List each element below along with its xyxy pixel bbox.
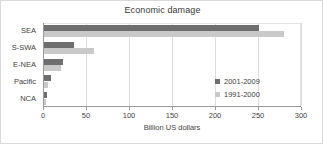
x-tick-50 xyxy=(86,107,87,110)
bar-s-swa-1991-2000 xyxy=(44,48,94,54)
bar-e-nea-1991-2000 xyxy=(44,65,61,71)
x-tick-label-150: 150 xyxy=(166,111,179,120)
y-axis-label-nca: NCA xyxy=(20,94,36,103)
chart-title: Economic damage xyxy=(1,5,323,15)
x-axis-title: Billion US dollars xyxy=(43,123,301,132)
bar-s-swa-2001-2009 xyxy=(44,42,74,48)
bar-sea-2001-2009 xyxy=(44,25,259,31)
bar-e-nea-2001-2009 xyxy=(44,59,63,65)
x-tick-label-300: 300 xyxy=(295,111,308,120)
x-tick-250 xyxy=(258,107,259,110)
legend-swatch-icon xyxy=(215,79,220,84)
y-axis-label-s-swa: S-SWA xyxy=(12,43,36,52)
y-axis-label-pacific: Pacific xyxy=(14,77,36,86)
x-tick-100 xyxy=(129,107,130,110)
legend-label: 2001-2009 xyxy=(224,77,260,86)
y-axis-label-e-nea: E-NEA xyxy=(13,60,36,69)
bar-pacific-2001-2009 xyxy=(44,75,51,81)
y-axis-label-sea: SEA xyxy=(21,26,36,35)
x-tick-label-200: 200 xyxy=(209,111,222,120)
bar-pacific-1991-2000 xyxy=(44,82,48,88)
legend-item-2001-2009[interactable]: 2001-2009 xyxy=(215,77,295,86)
bar-sea-1991-2000 xyxy=(44,31,284,37)
x-axis: 050100150200250300 xyxy=(43,107,301,121)
bar-nca-2001-2009 xyxy=(44,92,47,98)
x-tick-label-100: 100 xyxy=(123,111,136,120)
legend-swatch-icon xyxy=(215,92,220,97)
y-axis-labels: SEAS-SWAE-NEAPacificNCA xyxy=(1,23,40,107)
legend-label: 1991-2000 xyxy=(224,90,260,99)
x-tick-200 xyxy=(215,107,216,110)
x-tick-label-50: 50 xyxy=(82,111,90,120)
chart-frame: Economic damage SEAS-SWAE-NEAPacificNCA … xyxy=(0,0,323,144)
legend: 2001-20091991-2000 xyxy=(215,77,295,103)
x-tick-0 xyxy=(43,107,44,110)
legend-item-1991-2000[interactable]: 1991-2000 xyxy=(215,90,295,99)
x-tick-label-250: 250 xyxy=(252,111,265,120)
x-tick-300 xyxy=(301,107,302,110)
bar-nca-1991-2000 xyxy=(44,99,46,105)
gridline-300 xyxy=(301,23,302,106)
x-tick-150 xyxy=(172,107,173,110)
x-tick-label-0: 0 xyxy=(41,111,45,120)
